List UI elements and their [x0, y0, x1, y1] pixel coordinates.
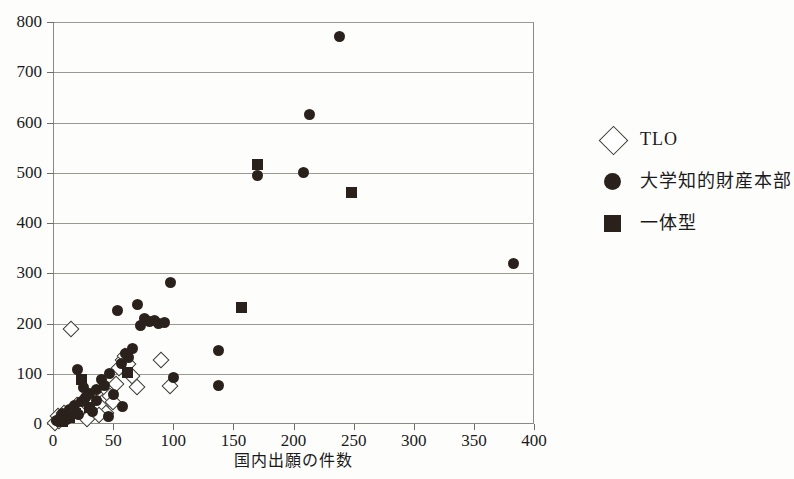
data-point-square [346, 187, 357, 198]
data-point-circle [168, 372, 179, 383]
gridline-horizontal [53, 273, 534, 274]
data-point-circle [252, 170, 263, 181]
square-filled-marker [600, 210, 626, 236]
data-point-circle [127, 343, 138, 354]
diamond-open-marker [600, 126, 626, 152]
y-axis-tick [47, 324, 54, 325]
data-point-square [122, 367, 133, 378]
gridline-horizontal [53, 123, 534, 124]
x-axis-title: 国内出願の件数 [53, 452, 534, 470]
gridline-horizontal [53, 324, 534, 325]
y-axis-tick-label: 800 [0, 13, 42, 30]
y-axis-tick-label: 400 [0, 214, 42, 231]
x-axis-tick-label: 350 [444, 432, 504, 449]
y-axis-tick-label: 300 [0, 264, 42, 281]
x-axis-tick-label: 150 [203, 432, 263, 449]
x-axis-tick [233, 424, 234, 430]
circle-filled-marker [600, 168, 626, 194]
legend-item[interactable]: 一体型 [600, 202, 790, 244]
legend-item-label: 大学知的財産本部 [640, 171, 792, 191]
data-point-circle [508, 258, 519, 269]
legend-item-label: 一体型 [640, 213, 697, 233]
y-axis-tick-label: 100 [0, 365, 42, 382]
data-point-circle [298, 167, 309, 178]
data-point-square [236, 302, 247, 313]
legend-item[interactable]: 大学知的財産本部 [600, 160, 790, 202]
x-axis-tick-label: 100 [143, 432, 203, 449]
data-point-square [76, 374, 87, 385]
y-axis-tick-label: 500 [0, 164, 42, 181]
x-axis-tick-label: 400 [504, 432, 564, 449]
top-caption [8, 0, 268, 9]
x-axis-tick-label: 200 [264, 432, 324, 449]
chart-legend: TLO大学知的財産本部一体型 [600, 118, 790, 244]
y-axis-tick [47, 374, 54, 375]
x-axis-tick [534, 424, 535, 430]
data-point-square [252, 159, 263, 170]
data-point-square [84, 402, 95, 413]
x-axis-tick-label: 50 [83, 432, 143, 449]
x-axis-tick [414, 424, 415, 430]
data-point-circle [334, 31, 345, 42]
data-point-square [70, 408, 81, 419]
y-axis-tick [47, 273, 54, 274]
x-axis-tick-label: 300 [384, 432, 444, 449]
x-axis-tick [173, 424, 174, 430]
x-axis-tick-label: 250 [324, 432, 384, 449]
data-point-circle [132, 299, 143, 310]
y-axis-tick-label: 200 [0, 315, 42, 332]
y-axis-tick [47, 22, 54, 23]
data-point-circle [108, 389, 119, 400]
gridline-horizontal [53, 223, 534, 224]
legend-item-label: TLO [640, 129, 678, 149]
y-axis-tick [47, 72, 54, 73]
gridline-horizontal [53, 173, 534, 174]
y-axis-tick-label: 700 [0, 63, 42, 80]
x-axis-tick-label: 0 [23, 432, 83, 449]
x-axis-tick [474, 424, 475, 430]
x-axis-tick [354, 424, 355, 430]
legend-item[interactable]: TLO [600, 118, 790, 160]
gridline-horizontal [53, 72, 534, 73]
x-axis-tick [113, 424, 114, 430]
y-axis-tick [47, 123, 54, 124]
scatter-chart-page: 0100200300400500600700800050100150200250… [0, 0, 794, 479]
y-axis-tick-label: 600 [0, 114, 42, 131]
y-axis-tick [47, 173, 54, 174]
x-axis-tick [294, 424, 295, 430]
y-axis-tick [47, 223, 54, 224]
y-axis-tick-label: 0 [0, 415, 42, 432]
